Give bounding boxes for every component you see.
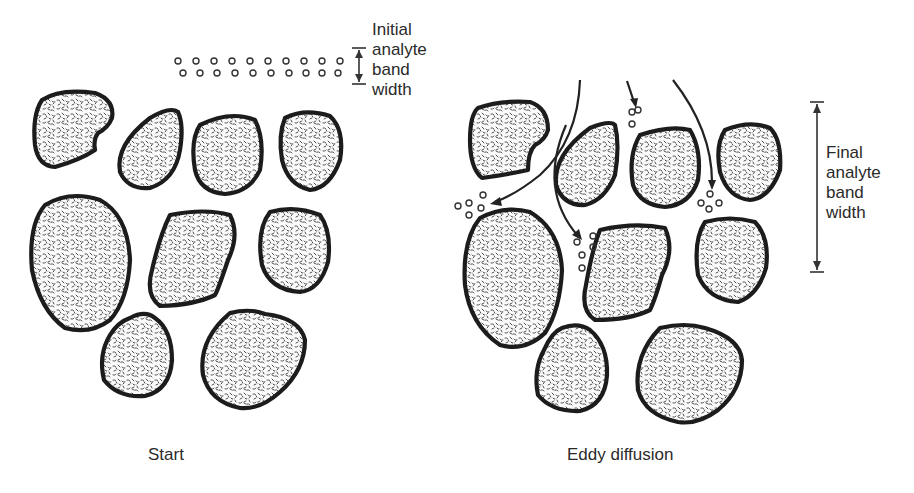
- annotation-line: width: [826, 203, 881, 223]
- diagram-canvas: [0, 0, 914, 493]
- packing-particle: [470, 102, 548, 178]
- caption-start: Start: [148, 445, 184, 465]
- annotation-line: width: [372, 80, 427, 100]
- packing-particle: [31, 196, 130, 330]
- annotation-line: band: [826, 183, 881, 203]
- packing-particle: [281, 112, 342, 190]
- packing-particle: [556, 123, 618, 205]
- initial-band-width-marker: [352, 48, 366, 84]
- annotation-line: Initial: [372, 20, 427, 40]
- packing-particle: [34, 92, 112, 167]
- analyte-band-initial: [175, 58, 343, 76]
- packing-particle: [193, 116, 261, 194]
- packing-particle: [260, 209, 329, 292]
- packing-particle: [202, 311, 305, 408]
- start-panel: [31, 48, 366, 408]
- annotation-line: analyte: [826, 163, 881, 183]
- packing-particle: [632, 128, 699, 207]
- packing-particle: [584, 225, 669, 320]
- initial-band-width-label: Initial analyte band width: [372, 20, 427, 100]
- packing-particle: [718, 124, 780, 200]
- final-band-width-label: Final analyte band width: [826, 143, 881, 223]
- packing-particle: [697, 219, 767, 303]
- packing-particle: [150, 212, 235, 307]
- eddy-panel: [455, 80, 824, 423]
- packing-particle: [637, 325, 742, 423]
- packing-particle: [465, 210, 562, 347]
- packing-particle: [102, 314, 172, 396]
- annotation-line: band: [372, 60, 427, 80]
- annotation-line: Final: [826, 143, 881, 163]
- final-band-width-marker: [810, 102, 824, 272]
- packing-particle: [119, 110, 181, 188]
- caption-eddy-diffusion: Eddy diffusion: [567, 445, 673, 465]
- packing-particle: [536, 325, 607, 411]
- annotation-line: analyte: [372, 40, 427, 60]
